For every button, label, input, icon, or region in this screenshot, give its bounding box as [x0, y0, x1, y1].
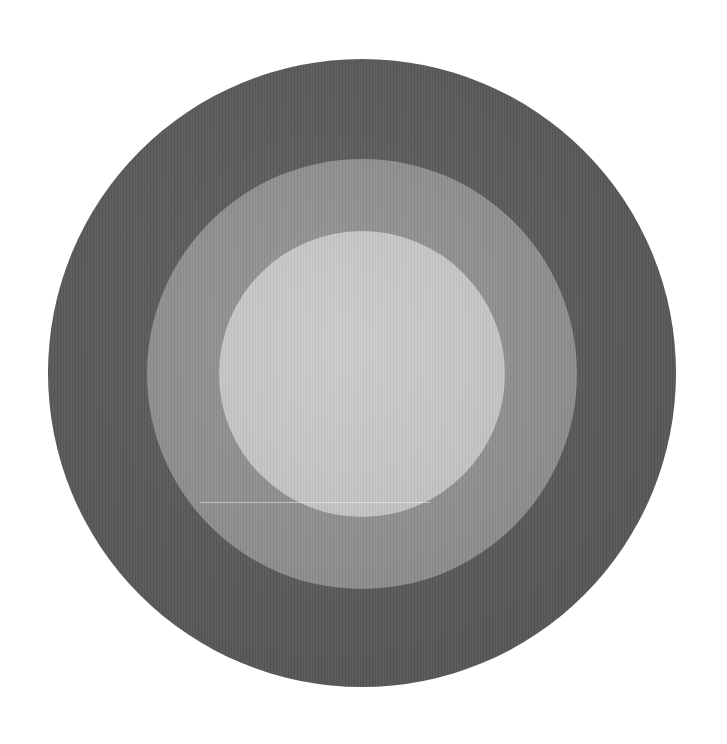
scan-artifact-line	[200, 502, 430, 503]
image-canvas	[0, 0, 727, 744]
inner-circle	[219, 231, 505, 517]
